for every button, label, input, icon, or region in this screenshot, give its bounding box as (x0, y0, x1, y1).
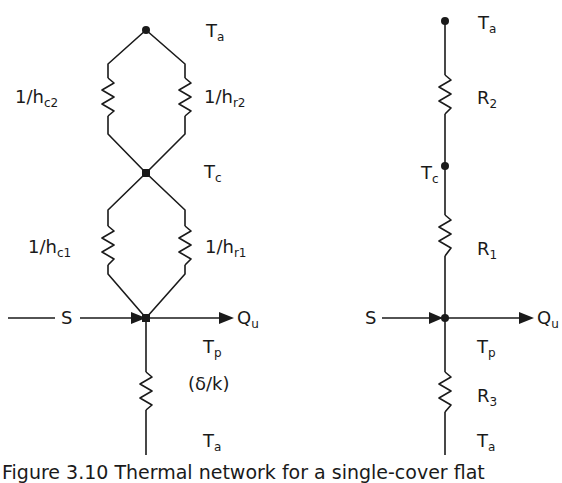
right-label-qu: Qu (537, 309, 559, 330)
left-label-ta-top: Ta (206, 22, 224, 43)
right-arrowhead-s (429, 312, 443, 324)
right-label-r3: R3 (477, 387, 497, 408)
left-label-hr2: 1/hr2 (204, 88, 246, 109)
right-label-tp: Tp (477, 338, 496, 359)
left-node-tc (142, 169, 150, 177)
figure-caption: Figure 3.10 Thermal network for a single… (2, 463, 485, 482)
resistor-hr2-zigzag (179, 78, 191, 116)
left-label-s: S (61, 309, 72, 327)
right-node-tc (441, 162, 449, 170)
right-label-r1: R1 (477, 240, 497, 261)
resistor-r2-zigzag (439, 75, 451, 114)
resistor-hc1-zigzag (102, 226, 114, 265)
left-label-tp: Tp (203, 338, 222, 359)
left-label-delta-k: (δ/k) (188, 375, 230, 393)
resistor-r3-zigzag (439, 372, 451, 412)
right-arrowhead-qu (519, 312, 534, 324)
left-arrowhead-qu (219, 312, 234, 324)
right-label-s: S (365, 309, 376, 327)
left-upper-loop (102, 30, 191, 173)
left-label-ta-bottom: Ta (203, 432, 221, 453)
right-series-path (439, 21, 451, 455)
resistor-back-zigzag (140, 372, 152, 410)
resistor-r1-zigzag (439, 215, 451, 256)
left-label-tc: Tc (204, 163, 222, 184)
right-label-ta-top: Ta (478, 14, 496, 35)
left-label-qu: Qu (237, 309, 259, 330)
right-label-r2: R2 (477, 89, 497, 110)
left-label-hr1: 1/hr1 (205, 238, 247, 259)
left-label-hc1: 1/hc1 (28, 238, 71, 259)
left-label-hc2: 1/hc2 (15, 88, 58, 109)
left-lower-loop (102, 173, 191, 318)
right-node-ta-top (441, 17, 449, 25)
resistor-hr1-zigzag (179, 226, 191, 265)
left-arrowhead-s (131, 312, 146, 324)
left-node-ta-top (142, 26, 150, 34)
right-label-ta-bottom: Ta (477, 432, 495, 453)
left-back-path (140, 318, 152, 455)
resistor-hc2-zigzag (102, 78, 114, 116)
right-label-tc: Tc (421, 164, 439, 185)
